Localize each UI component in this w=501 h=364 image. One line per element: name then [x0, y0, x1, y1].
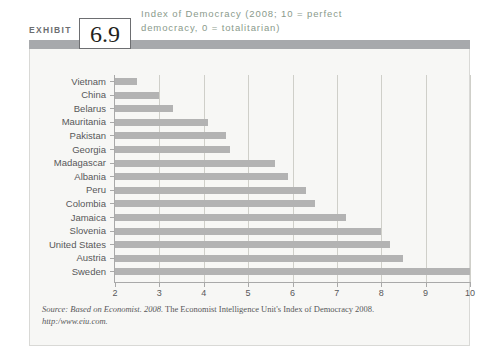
x-tick-7 — [337, 283, 338, 287]
category-label: Belarus — [30, 103, 106, 114]
bar — [115, 146, 230, 153]
bar — [115, 119, 208, 126]
x-tick-label-6: 6 — [283, 288, 303, 298]
bar — [115, 268, 470, 275]
category-label: Madagascar — [30, 157, 106, 168]
category-label: United States — [30, 239, 106, 250]
x-tick-label-5: 5 — [238, 288, 258, 298]
category-label: Slovenia — [30, 225, 106, 236]
category-label: Colombia — [30, 198, 106, 209]
chart-title: Index of Democracy (2008; 10 = perfect d… — [141, 7, 391, 35]
exhibit-label: EXHIBIT — [29, 25, 72, 35]
x-tick-label-2: 2 — [105, 288, 125, 298]
bar — [115, 214, 346, 221]
plot-area: VietnamChinaBelarusMauritaniaPakistanGeo… — [30, 49, 471, 346]
category-label: Georgia — [30, 144, 106, 155]
category-label: Pakistan — [30, 130, 106, 141]
source-prefix: Source: Based on Economist. 2008. — [42, 304, 163, 314]
x-tick-label-10: 10 — [460, 288, 480, 298]
x-tick-4 — [204, 283, 205, 287]
gridline-6 — [293, 75, 294, 282]
x-tick-label-4: 4 — [194, 288, 214, 298]
source-text: The Economist Intelligence Unit's Index … — [163, 304, 374, 314]
category-label: Austria — [30, 252, 106, 263]
exhibit-number-box: 6.9 — [79, 18, 131, 49]
gridline-8 — [381, 75, 382, 282]
x-tick-label-7: 7 — [327, 288, 347, 298]
category-label: Peru — [30, 184, 106, 195]
gridline-7 — [337, 75, 338, 282]
source-note: Source: Based on Economist. 2008. The Ec… — [42, 304, 462, 327]
bar — [115, 255, 403, 262]
x-tick-8 — [381, 283, 382, 287]
gridline-9 — [426, 75, 427, 282]
bar — [115, 160, 275, 167]
gridline-10 — [470, 75, 471, 282]
bar — [115, 228, 381, 235]
bar — [115, 173, 288, 180]
source-url: http:/www.eiu.com. — [42, 316, 108, 326]
category-label: Vietnam — [30, 76, 106, 87]
bar — [115, 92, 159, 99]
x-tick-9 — [426, 283, 427, 287]
x-tick-2 — [115, 283, 116, 287]
category-label: Mauritania — [30, 116, 106, 127]
bar — [115, 132, 226, 139]
category-label: China — [30, 89, 106, 100]
exhibit-number: 6.9 — [80, 19, 130, 49]
bar — [115, 187, 306, 194]
x-tick-5 — [248, 283, 249, 287]
x-tick-6 — [293, 283, 294, 287]
bar — [115, 200, 315, 207]
category-label: Albania — [30, 171, 106, 182]
bar — [115, 105, 173, 112]
x-tick-label-8: 8 — [371, 288, 391, 298]
bar — [115, 78, 137, 85]
x-tick-label-9: 9 — [416, 288, 436, 298]
y-axis-line — [114, 75, 115, 282]
category-label: Sweden — [30, 266, 106, 277]
chart-panel: VietnamChinaBelarusMauritaniaPakistanGeo… — [29, 49, 470, 346]
x-tick-3 — [159, 283, 160, 287]
category-label: Jamaica — [30, 212, 106, 223]
x-tick-10 — [470, 283, 471, 287]
x-tick-label-3: 3 — [149, 288, 169, 298]
bar — [115, 241, 390, 248]
